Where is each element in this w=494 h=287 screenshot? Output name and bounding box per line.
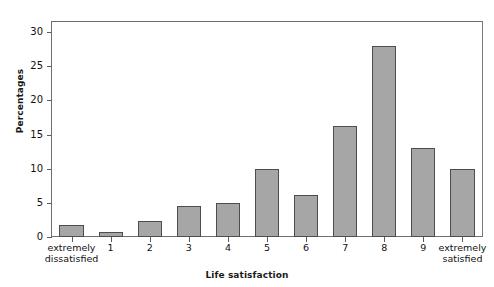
bars-layer [52, 22, 482, 237]
y-tick-label: 25 [21, 61, 43, 71]
y-tick-label: 30 [21, 27, 43, 37]
y-tick-label: 5 [21, 198, 43, 208]
bar [138, 221, 162, 237]
y-tick-label: 15 [21, 130, 43, 140]
bar [59, 225, 83, 237]
bar [333, 126, 357, 237]
y-tick-label: 10 [21, 164, 43, 174]
bar [450, 169, 474, 237]
y-tick-label: 0 [21, 232, 43, 242]
x-axis-title: Life satisfaction [0, 270, 494, 280]
bar [177, 206, 201, 237]
bar [255, 169, 279, 237]
y-tick-label: 20 [21, 95, 43, 105]
bar [294, 195, 318, 237]
y-tick-mark [47, 237, 52, 238]
bar [216, 203, 240, 237]
bar [372, 46, 396, 237]
bar-chart: Percentages 051015202530 extremely dissa… [0, 0, 494, 287]
x-tick-label: extremely satisfied [425, 243, 494, 264]
bar [411, 148, 435, 237]
